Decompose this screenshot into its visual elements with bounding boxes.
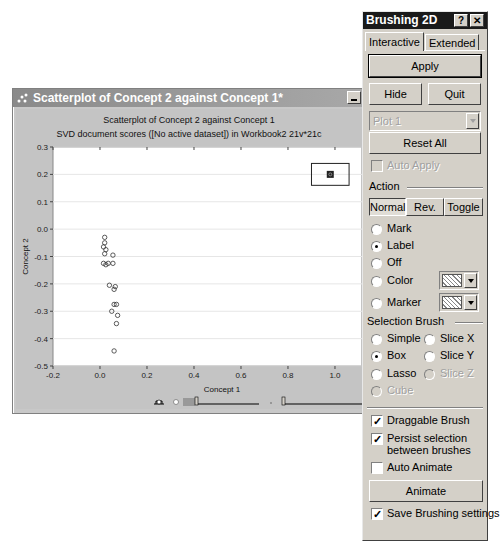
marker-size-icon <box>270 402 272 404</box>
brush-slice-z-label: Slice Z <box>440 367 474 379</box>
x-tick-label: 0.0 <box>94 371 106 380</box>
dialog-titlebar[interactable]: Brushing 2D ? ✕ <box>363 12 487 29</box>
tab-extended[interactable]: Extended <box>425 34 479 51</box>
scatter-plot[interactable]: 0.30.20.10.0-0.1-0.2-0.3-0.4-0.5-0.20.00… <box>16 109 362 409</box>
action-group-label: Action <box>369 180 400 192</box>
x-tick-label: 0.8 <box>282 371 294 380</box>
y-tick-label: -0.4 <box>34 335 48 344</box>
selection-brush-divider <box>455 322 483 324</box>
action-off-label: Off <box>387 256 401 268</box>
auto-apply-checkbox[interactable] <box>371 160 383 172</box>
point-size-icon <box>174 400 179 405</box>
save-brushing-settings-checkbox[interactable]: ✓ <box>371 508 383 520</box>
persist-selection-label-line2: between brushes <box>387 444 471 456</box>
marker-picker[interactable] <box>439 293 479 312</box>
selection-brush-group-label: Selection Brush <box>367 315 444 327</box>
scatterplot-app-icon <box>16 92 29 104</box>
brush-slice-y-radio[interactable] <box>424 351 435 362</box>
mode-toggle-button[interactable]: Toggle <box>444 198 483 216</box>
chart-area: Scatterplot of Concept 2 against Concept… <box>16 109 362 409</box>
auto-apply-label: Auto Apply <box>387 159 440 171</box>
brush-lasso-radio[interactable] <box>371 369 382 380</box>
y-axis-label: Concept 2 <box>21 238 30 275</box>
mode-normal-button[interactable]: Normal <box>369 198 406 216</box>
brush-simple-label: Simple <box>387 332 421 344</box>
x-tick-label: -0.2 <box>46 371 60 380</box>
plot-select[interactable]: Plot 1 <box>369 111 481 131</box>
mode-rev-button[interactable]: Rev. <box>406 198 444 216</box>
save-brushing-settings-label: Save Brushing settings <box>387 507 500 519</box>
chevron-down-icon[interactable] <box>464 273 477 288</box>
persist-selection-checkbox[interactable]: ✓ <box>371 433 383 445</box>
color-picker[interactable] <box>439 271 479 290</box>
brush-slice-x-label: Slice X <box>440 332 474 344</box>
action-label-radio[interactable] <box>371 241 382 252</box>
mode-buttons: Normal Rev. Toggle <box>369 198 483 216</box>
check-icon: ✓ <box>373 415 382 427</box>
y-tick-label: -0.2 <box>34 280 48 289</box>
y-tick-label: 0.1 <box>37 198 49 207</box>
plot-select-value: Plot 1 <box>373 115 401 127</box>
minimize-button[interactable] <box>347 91 361 104</box>
reset-all-button[interactable]: Reset All <box>369 132 481 154</box>
opacity-slider[interactable] <box>195 397 259 405</box>
close-button[interactable]: ✕ <box>470 14 484 27</box>
dialog-title: Brushing 2D <box>366 13 437 27</box>
y-tick-label: -0.1 <box>34 253 48 262</box>
y-tick-label: 0.2 <box>37 170 49 179</box>
color-swatch <box>442 274 462 287</box>
action-group-divider <box>407 187 483 189</box>
plot-controls <box>16 396 362 408</box>
scatterplot-window-titlebar[interactable]: Scatterplot of Concept 2 against Concept… <box>13 89 363 107</box>
selected-point[interactable] <box>327 171 334 178</box>
action-color-label: Color <box>387 274 413 286</box>
x-tick-label: 1.0 <box>329 371 341 380</box>
y-tick-label: -0.5 <box>34 362 48 371</box>
action-color-radio[interactable] <box>371 276 382 287</box>
auto-animate-label: Auto Animate <box>387 461 452 473</box>
x-tick-label: 0.4 <box>188 371 200 380</box>
help-icon: ? <box>458 15 464 26</box>
draggable-brush-label: Draggable Brush <box>387 414 470 426</box>
brush-box-radio[interactable] <box>371 351 382 362</box>
x-axis-label: Concept 1 <box>204 385 241 394</box>
brush-box-label: Box <box>387 349 406 361</box>
brush-slice-x-radio[interactable] <box>424 334 435 345</box>
brush-slice-z-radio[interactable] <box>424 369 435 380</box>
help-button[interactable]: ? <box>454 14 468 27</box>
action-label-label: Label <box>387 239 414 251</box>
action-mark-label: Mark <box>387 222 411 234</box>
check-icon: ✓ <box>373 433 382 445</box>
brush-cube-label: Cube <box>387 384 413 396</box>
draggable-brush-checkbox[interactable]: ✓ <box>371 415 383 427</box>
y-tick-label: 0.3 <box>37 143 49 152</box>
zoom-tool-icon[interactable] <box>154 400 164 404</box>
y-tick-label: -0.3 <box>34 307 48 316</box>
brush-simple-radio[interactable] <box>371 334 382 345</box>
persist-selection-label-line1: Persist selection <box>387 432 467 444</box>
size-slider[interactable] <box>282 397 362 405</box>
action-marker-radio[interactable] <box>371 298 382 309</box>
animate-button[interactable]: Animate <box>369 480 483 502</box>
action-mark-radio[interactable] <box>371 224 382 235</box>
brushing-2d-dialog[interactable]: Brushing 2D ? ✕ Interactive Extended App… <box>362 11 488 541</box>
x-tick-label: 0.6 <box>235 371 247 380</box>
chevron-down-icon[interactable] <box>464 295 477 310</box>
brush-lasso-label: Lasso <box>387 367 416 379</box>
close-icon: ✕ <box>473 15 481 26</box>
scatterplot-window[interactable]: Scatterplot of Concept 2 against Concept… <box>12 88 364 414</box>
gradient-swatch <box>183 398 195 406</box>
apply-button[interactable]: Apply <box>369 55 481 77</box>
quit-button[interactable]: Quit <box>428 83 481 105</box>
chevron-down-icon[interactable] <box>466 113 479 129</box>
auto-animate-checkbox[interactable] <box>371 462 383 474</box>
tab-interactive[interactable]: Interactive <box>365 32 424 51</box>
action-off-radio[interactable] <box>371 258 382 269</box>
brush-slice-y-label: Slice Y <box>440 349 474 361</box>
scatterplot-window-title: Scatterplot of Concept 2 against Concept… <box>33 91 283 105</box>
options-divider <box>367 407 483 409</box>
y-tick-label: 0.0 <box>37 225 49 234</box>
marker-swatch <box>442 296 462 309</box>
brush-cube-radio[interactable] <box>371 386 382 397</box>
hide-button[interactable]: Hide <box>369 83 422 105</box>
